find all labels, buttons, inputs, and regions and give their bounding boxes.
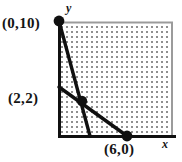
point-label-6-0: (6,0) xyxy=(104,142,134,157)
point-label-2-2: (2,2) xyxy=(8,91,38,106)
vertex-dot-2-2 xyxy=(77,96,87,106)
coordinate-plane-figure: (0,10) (2,2) (6,0) y x xyxy=(0,0,182,162)
y-axis-label: y xyxy=(66,2,71,14)
vertex-dot-0-10 xyxy=(54,16,65,27)
x-axis-label: x xyxy=(162,138,168,150)
point-label-0-10: (0,10) xyxy=(2,16,40,31)
vertex-dot-6-0 xyxy=(122,131,133,142)
